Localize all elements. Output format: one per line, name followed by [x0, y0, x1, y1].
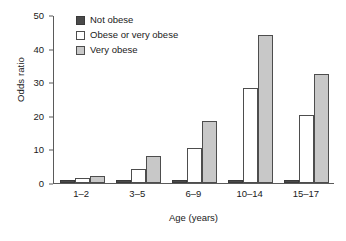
- y-axis-tick-label: 0: [18, 179, 44, 189]
- bar: [187, 148, 202, 183]
- legend-label: Not obese: [90, 15, 133, 25]
- legend-item: Obese or very obese: [76, 29, 178, 41]
- bar: [299, 115, 314, 183]
- bar: [258, 35, 273, 184]
- y-axis-tick-label: 20: [18, 112, 44, 122]
- bar: [116, 180, 131, 183]
- x-axis-title: Age (years): [53, 212, 334, 223]
- legend-swatch-icon: [76, 46, 85, 55]
- bar: [284, 180, 299, 183]
- y-axis-tick-label: 50: [18, 11, 44, 21]
- bar: [131, 169, 146, 183]
- y-axis-tick-label: 30: [18, 78, 44, 88]
- y-axis-tick-label: 40: [18, 45, 44, 55]
- bar: [202, 121, 217, 183]
- legend-item: Very obese: [76, 44, 178, 56]
- legend-label: Very obese: [90, 45, 138, 55]
- bar-group: [228, 16, 273, 183]
- bar: [314, 74, 329, 183]
- bar: [228, 180, 243, 183]
- bar: [243, 88, 258, 183]
- bar: [90, 176, 105, 183]
- bar: [60, 180, 75, 183]
- x-axis-tick-label: 6–9: [167, 188, 219, 199]
- legend-item: Not obese: [76, 14, 178, 26]
- x-axis-tick-label: 15–17: [280, 188, 332, 199]
- bar: [75, 178, 90, 183]
- legend-swatch-icon: [76, 31, 85, 40]
- bar: [172, 180, 187, 183]
- odds-ratio-bar-chart: Odds ratio 01020304050 1–23–56–910–1415–…: [0, 0, 346, 241]
- bar-group: [284, 16, 329, 183]
- y-axis-tick-labels: 01020304050: [18, 16, 44, 184]
- bar: [146, 156, 161, 183]
- y-axis-tick-label: 10: [18, 146, 44, 156]
- x-axis-tick-labels: 1–23–56–910–1415–17: [53, 188, 334, 199]
- x-axis-tick-label: 1–2: [55, 188, 107, 199]
- legend-label: Obese or very obese: [90, 30, 178, 40]
- x-axis-tick-label: 3–5: [111, 188, 163, 199]
- x-axis-tick-label: 10–14: [224, 188, 276, 199]
- chart-legend: Not obeseObese or very obeseVery obese: [76, 14, 178, 56]
- legend-swatch-icon: [76, 16, 85, 25]
- bar-group: [172, 16, 217, 183]
